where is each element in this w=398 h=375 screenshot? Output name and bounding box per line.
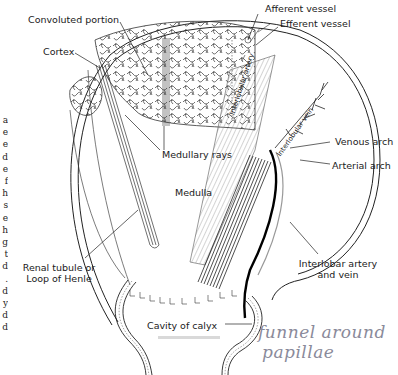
label-medulla: Medulla: [175, 187, 212, 198]
label-renal-tubule: Renal tubule or Loop of Henle: [18, 262, 100, 284]
side-char: e: [0, 126, 8, 138]
side-char: e: [0, 138, 8, 150]
side-char: d: [0, 309, 8, 321]
kidney-diagram: a e e d e f h s e h g t d . d y d d Conv…: [0, 0, 398, 375]
label-interlobar-line2: and vein: [292, 269, 384, 280]
label-venous-arch: Venous arch: [335, 136, 393, 147]
label-efferent-vessel: Efferent vessel: [280, 18, 351, 29]
label-cavity-of-calyx: Cavity of calyx: [147, 320, 217, 331]
label-interlobar-artery-vein: Interlobar artery and vein: [292, 258, 384, 280]
side-char: f: [0, 175, 8, 187]
side-char: h: [0, 187, 8, 199]
side-char: e: [0, 212, 8, 224]
label-convoluted-portion: Convoluted portion: [28, 14, 119, 25]
side-char: g: [0, 236, 8, 248]
label-cortex: Cortex: [43, 46, 74, 57]
side-char: d: [0, 260, 8, 272]
side-char: .: [0, 273, 8, 285]
handwritten-note-line2: papillae: [262, 342, 334, 362]
label-renal-tubule-line1: Renal tubule or: [18, 262, 100, 273]
label-interlobar-line1: Interlobar artery: [292, 258, 384, 269]
side-char: d: [0, 151, 8, 163]
label-afferent-vessel: Afferent vessel: [265, 3, 336, 14]
handwritten-note-line1: funnel around: [258, 322, 386, 342]
label-medullary-rays: Medullary rays: [162, 149, 232, 160]
cropped-side-text: a e e d e f h s e h g t d . d y d d: [0, 114, 8, 334]
side-char: t: [0, 248, 8, 260]
side-char: d: [0, 285, 8, 297]
side-char: h: [0, 224, 8, 236]
label-arterial-arch: Arterial arch: [332, 160, 391, 171]
side-char: y: [0, 297, 8, 309]
side-char: e: [0, 163, 8, 175]
side-char: s: [0, 199, 8, 211]
side-char: d: [0, 321, 8, 333]
label-renal-tubule-line2: Loop of Henle: [18, 273, 100, 284]
side-char: a: [0, 114, 8, 126]
